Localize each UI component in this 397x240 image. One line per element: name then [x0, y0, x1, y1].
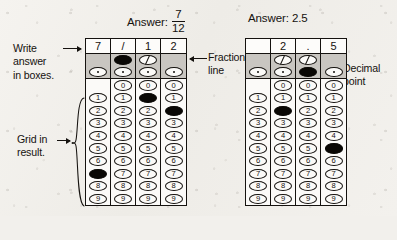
- digit-bubble-cell[interactable]: 8: [86, 180, 110, 193]
- decimal-bubble-cell[interactable]: [161, 67, 186, 80]
- digit-bubble-cell[interactable]: 6: [161, 155, 186, 168]
- digit-bubble[interactable]: 7: [249, 169, 267, 179]
- digit-bubble-cell[interactable]: 7: [161, 167, 186, 180]
- decimal-answer-grid[interactable]: 12345678920123456789.0123456789501234567…: [245, 38, 347, 206]
- digit-bubble[interactable]: 9: [299, 194, 317, 204]
- digit-bubble[interactable]: 7: [114, 169, 132, 179]
- slash-bubble-cell[interactable]: [111, 54, 135, 67]
- grid-column[interactable]: 7123456789: [86, 39, 111, 205]
- digit-bubble-cell[interactable]: [246, 79, 270, 92]
- digit-bubble-cell[interactable]: 3: [271, 117, 295, 130]
- digit-bubble[interactable]: 5: [139, 143, 157, 153]
- slash-bubble-filled[interactable]: [114, 55, 132, 65]
- digit-bubble-cell[interactable]: 1: [86, 92, 110, 105]
- written-answer-cell[interactable]: 2: [161, 39, 186, 54]
- decimal-bubble-cell[interactable]: [111, 67, 135, 80]
- digit-bubble[interactable]: 8: [139, 181, 157, 191]
- digit-bubble[interactable]: 4: [89, 131, 107, 141]
- digit-bubble[interactable]: 4: [299, 131, 317, 141]
- decimal-bubble-cell[interactable]: [271, 67, 295, 80]
- digit-bubble-cell[interactable]: 5: [86, 142, 110, 155]
- digit-bubble-cell[interactable]: 2: [321, 104, 346, 117]
- digit-bubble[interactable]: 6: [89, 156, 107, 166]
- decimal-bubble-cell[interactable]: [296, 67, 320, 80]
- digit-bubble[interactable]: 1: [325, 93, 343, 103]
- digit-bubble[interactable]: 4: [139, 131, 157, 141]
- digit-bubble-filled[interactable]: 7: [89, 169, 107, 179]
- digit-bubble-cell[interactable]: 7: [321, 167, 346, 180]
- digit-bubble-cell[interactable]: 9: [296, 193, 320, 206]
- digit-bubble-cell[interactable]: 3: [86, 117, 110, 130]
- digit-bubble[interactable]: 6: [325, 156, 343, 166]
- digit-bubble[interactable]: 1: [274, 93, 292, 103]
- decimal-bubble-cell[interactable]: [136, 67, 160, 80]
- digit-bubble-cell[interactable]: 6: [321, 155, 346, 168]
- digit-bubble-cell[interactable]: 9: [161, 193, 186, 206]
- digit-bubble-cell[interactable]: 9: [86, 193, 110, 206]
- digit-bubble[interactable]: 3: [165, 118, 183, 128]
- slash-bubble-cell[interactable]: [246, 54, 270, 67]
- digit-bubble-cell[interactable]: 2: [86, 104, 110, 117]
- digit-bubble-cell[interactable]: 2: [296, 104, 320, 117]
- written-answer-cell[interactable]: 7: [86, 39, 110, 54]
- digit-bubble[interactable]: 9: [274, 194, 292, 204]
- digit-bubble[interactable]: 2: [249, 106, 267, 116]
- digit-bubble-cell[interactable]: 6: [296, 155, 320, 168]
- digit-bubble-cell[interactable]: 1: [271, 92, 295, 105]
- digit-bubble-cell[interactable]: 3: [296, 117, 320, 130]
- slash-bubble[interactable]: [274, 55, 292, 65]
- digit-bubble-cell[interactable]: 6: [136, 155, 160, 168]
- digit-bubble-filled[interactable]: 2: [165, 106, 183, 116]
- digit-bubble[interactable]: 9: [139, 194, 157, 204]
- written-answer-cell[interactable]: [246, 39, 270, 54]
- digit-bubble-cell[interactable]: 2: [271, 104, 295, 117]
- grid-column[interactable]: .0123456789: [296, 39, 321, 205]
- digit-bubble-cell[interactable]: 0: [161, 79, 186, 92]
- digit-bubble[interactable]: 2: [325, 106, 343, 116]
- written-answer-cell[interactable]: .: [296, 39, 320, 54]
- digit-bubble[interactable]: 4: [114, 131, 132, 141]
- digit-bubble[interactable]: 6: [249, 156, 267, 166]
- decimal-bubble[interactable]: [165, 67, 183, 77]
- digit-bubble-cell[interactable]: 1: [321, 92, 346, 105]
- digit-bubble[interactable]: 2: [299, 106, 317, 116]
- digit-bubble-cell[interactable]: 5: [136, 142, 160, 155]
- digit-bubble-cell[interactable]: 6: [111, 155, 135, 168]
- digit-bubble-cell[interactable]: 4: [136, 130, 160, 143]
- decimal-bubble[interactable]: [325, 67, 343, 77]
- digit-bubble[interactable]: 4: [325, 131, 343, 141]
- digit-bubble-cell[interactable]: 3: [136, 117, 160, 130]
- digit-bubble[interactable]: 6: [299, 156, 317, 166]
- decimal-bubble-filled[interactable]: [299, 67, 317, 77]
- slash-bubble[interactable]: [299, 55, 317, 65]
- digit-bubble[interactable]: 0: [299, 80, 317, 90]
- digit-bubble[interactable]: 6: [114, 156, 132, 166]
- digit-bubble-cell[interactable]: 4: [296, 130, 320, 143]
- digit-bubble-cell[interactable]: 6: [271, 155, 295, 168]
- slash-bubble-cell[interactable]: [296, 54, 320, 67]
- decimal-bubble-cell[interactable]: [246, 67, 270, 80]
- digit-bubble[interactable]: 8: [114, 181, 132, 191]
- digit-bubble-cell[interactable]: 8: [271, 180, 295, 193]
- digit-bubble[interactable]: 5: [249, 143, 267, 153]
- digit-bubble[interactable]: 9: [325, 194, 343, 204]
- digit-bubble[interactable]: 6: [139, 156, 157, 166]
- digit-bubble-cell[interactable]: 6: [86, 155, 110, 168]
- digit-bubble[interactable]: 8: [249, 181, 267, 191]
- digit-bubble-cell[interactable]: 0: [321, 79, 346, 92]
- digit-bubble[interactable]: 1: [114, 93, 132, 103]
- digit-bubble-cell[interactable]: 9: [136, 193, 160, 206]
- decimal-bubble-cell[interactable]: [86, 67, 110, 80]
- written-answer-cell[interactable]: /: [111, 39, 135, 54]
- decimal-bubble[interactable]: [139, 67, 157, 77]
- digit-bubble-cell[interactable]: 5: [246, 142, 270, 155]
- digit-bubble[interactable]: 0: [139, 80, 157, 90]
- fraction-answer-grid[interactable]: 7123456789/01234567891012345678920123456…: [85, 38, 187, 206]
- digit-bubble[interactable]: 9: [114, 194, 132, 204]
- slash-bubble[interactable]: [139, 55, 157, 65]
- digit-bubble[interactable]: 7: [299, 169, 317, 179]
- digit-bubble[interactable]: 8: [165, 181, 183, 191]
- digit-bubble[interactable]: 5: [299, 143, 317, 153]
- digit-bubble-cell[interactable]: 9: [111, 193, 135, 206]
- digit-bubble[interactable]: 3: [139, 118, 157, 128]
